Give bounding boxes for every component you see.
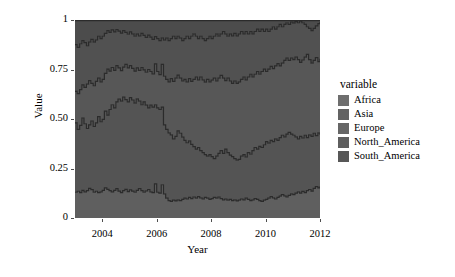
- x-tick-label: 2012: [297, 228, 343, 239]
- x-tick-label: 2008: [188, 228, 234, 239]
- x-tick-mark: [157, 219, 158, 222]
- legend-item-label: South_America: [354, 150, 420, 162]
- x-tick-label: 2006: [134, 228, 180, 239]
- y-tick-mark: [71, 218, 74, 219]
- legend-item[interactable]: North_America: [338, 135, 450, 149]
- legend-swatch-africa: [338, 95, 349, 106]
- y-tick-mark: [71, 70, 74, 71]
- x-tick-mark: [320, 219, 321, 222]
- legend-swatch-south-america: [338, 151, 349, 162]
- legend-item[interactable]: Europe: [338, 121, 450, 135]
- x-tick-mark: [211, 219, 212, 222]
- legend-swatch-asia: [338, 109, 349, 120]
- legend-item-label: Africa: [354, 94, 381, 106]
- legend-swatch-europe: [338, 123, 349, 134]
- legend-items: AfricaAsiaEuropeNorth_AmericaSouth_Ameri…: [338, 93, 450, 163]
- legend-item[interactable]: Asia: [338, 107, 450, 121]
- legend-item-label: Europe: [354, 122, 384, 134]
- x-axis-title: Year: [75, 243, 320, 255]
- legend-item[interactable]: South_America: [338, 149, 450, 163]
- y-tick-mark: [71, 169, 74, 170]
- x-tick-mark: [266, 219, 267, 222]
- x-tick-label: 2010: [243, 228, 289, 239]
- legend-swatch-north-america: [338, 137, 349, 148]
- legend: variable AfricaAsiaEuropeNorth_AmericaSo…: [338, 78, 450, 163]
- x-tick-mark: [102, 219, 103, 222]
- legend-title: variable: [340, 78, 450, 90]
- y-tick-mark: [71, 20, 74, 21]
- legend-item-label: Asia: [354, 108, 373, 120]
- y-tick-mark: [71, 119, 74, 120]
- legend-item-label: North_America: [354, 136, 420, 148]
- legend-item[interactable]: Africa: [338, 93, 450, 107]
- chart-figure: Value 00.250.500.751 2004200620082010201…: [0, 0, 455, 277]
- x-tick-label: 2004: [79, 228, 125, 239]
